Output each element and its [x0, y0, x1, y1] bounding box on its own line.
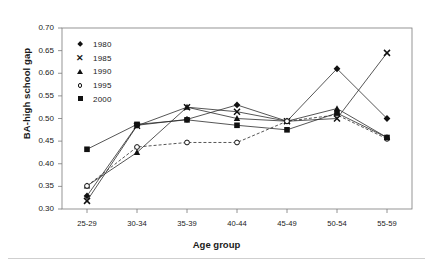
legend-label: 1995 [93, 81, 112, 90]
x-tick-label: 55-59 [357, 219, 417, 228]
legend-label: 2000 [93, 95, 112, 104]
x-icon: ✕ [72, 54, 88, 63]
y-tick-label: 0.35 [20, 181, 54, 190]
y-tick-label: 0.50 [20, 114, 54, 123]
y-tick-label: 0.65 [20, 46, 54, 55]
legend-item-2000: 2000 [72, 92, 112, 106]
legend-label: 1980 [93, 40, 112, 49]
y-tick-label: 0.30 [20, 204, 54, 213]
square-icon [72, 95, 88, 103]
footer-divider [8, 258, 425, 259]
x-axis-label: Age group [0, 239, 433, 250]
legend-item-1990: 1990 [72, 65, 112, 79]
y-tick-label: 0.45 [20, 136, 54, 145]
chart-figure: BA-high school gap Age group 1980 ✕ 1985… [0, 0, 433, 263]
legend-label: 1985 [93, 54, 112, 63]
legend-item-1995: 1995 [72, 79, 112, 93]
open-circle-icon [72, 82, 88, 90]
y-tick-label: 0.60 [20, 68, 54, 77]
y-tick-label: 0.70 [20, 23, 54, 32]
triangle-icon [72, 68, 88, 76]
y-tick-label: 0.55 [20, 91, 54, 100]
legend-item-1980: 1980 [72, 38, 112, 52]
legend-item-1985: ✕ 1985 [72, 52, 112, 66]
y-tick-label: 0.40 [20, 159, 54, 168]
legend-label: 1990 [93, 67, 112, 76]
chart-legend: 1980 ✕ 1985 1990 1995 2000 [72, 38, 112, 106]
diamond-icon [72, 41, 88, 49]
